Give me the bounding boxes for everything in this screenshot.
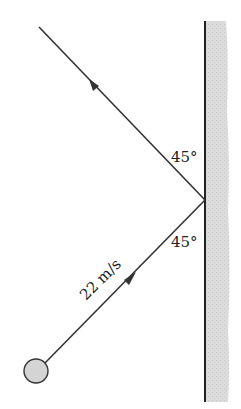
arrow-up-left-icon — [89, 79, 99, 91]
wall-shading — [205, 21, 230, 402]
arrow-up-right-icon — [124, 272, 136, 285]
ball — [24, 359, 48, 383]
incident-trajectory — [44, 200, 205, 364]
reflected-trajectory — [39, 27, 205, 200]
angle-label-lower: 45° — [171, 233, 198, 251]
speed-label: 22 m/s — [76, 255, 125, 304]
angle-label-upper: 45° — [171, 148, 198, 166]
reflection-diagram: 45° 45° 22 m/s — [0, 0, 241, 409]
